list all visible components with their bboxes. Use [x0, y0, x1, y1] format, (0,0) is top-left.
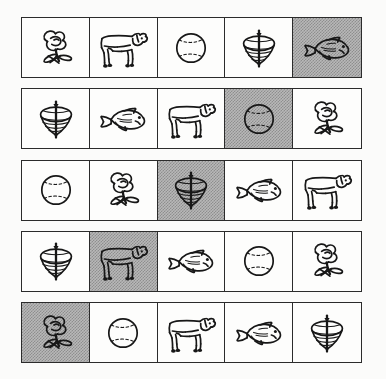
spinning-top-icon [231, 23, 287, 73]
spinning-top-icon [28, 94, 84, 144]
grid-cell-ball[interactable] [224, 231, 293, 292]
grid-cell-top[interactable] [224, 17, 293, 78]
ball-icon [28, 165, 84, 215]
flower-icon [299, 94, 355, 144]
fish-icon [95, 94, 151, 144]
spinning-top-icon [28, 236, 84, 286]
fish-icon [231, 165, 287, 215]
grid-cell-top[interactable] [21, 88, 90, 149]
flower-icon [28, 308, 84, 358]
grid-cell-ball[interactable] [224, 88, 293, 149]
grid-cell-top[interactable] [292, 302, 361, 363]
ball-icon [163, 23, 219, 73]
grid-cell-fish[interactable] [224, 160, 293, 221]
cow-icon [95, 236, 151, 286]
fish-icon [299, 23, 355, 73]
ball-icon [231, 236, 287, 286]
grid-cell-ball[interactable] [21, 160, 90, 221]
cow-icon [163, 94, 219, 144]
grid-row [21, 302, 368, 363]
grid-cell-ball[interactable] [89, 302, 158, 363]
grid-cell-top[interactable] [21, 231, 90, 292]
flower-icon [299, 236, 355, 286]
grid-row [21, 88, 368, 149]
grid-cell-cow[interactable] [157, 88, 226, 149]
grid-cell-fish[interactable] [157, 231, 226, 292]
picture-grid [21, 17, 368, 363]
grid-row [21, 231, 368, 292]
spinning-top-icon [163, 165, 219, 215]
grid-cell-flower[interactable] [292, 88, 361, 149]
spinning-top-icon [299, 308, 355, 358]
grid-cell-fish[interactable] [292, 17, 361, 78]
grid-cell-flower[interactable] [21, 302, 90, 363]
grid-cell-cow[interactable] [292, 160, 361, 221]
cow-icon [299, 165, 355, 215]
grid-cell-flower[interactable] [89, 160, 158, 221]
flower-icon [95, 165, 151, 215]
fish-icon [163, 236, 219, 286]
grid-cell-cow[interactable] [89, 17, 158, 78]
grid-cell-fish[interactable] [224, 302, 293, 363]
grid-cell-cow[interactable] [157, 302, 226, 363]
ball-icon [95, 308, 151, 358]
ball-icon [231, 94, 287, 144]
cow-icon [95, 23, 151, 73]
cow-icon [163, 308, 219, 358]
grid-row [21, 17, 368, 78]
grid-cell-ball[interactable] [157, 17, 226, 78]
grid-cell-flower[interactable] [21, 17, 90, 78]
flower-icon [28, 23, 84, 73]
grid-row [21, 160, 368, 221]
grid-cell-fish[interactable] [89, 88, 158, 149]
grid-cell-cow[interactable] [89, 231, 158, 292]
grid-cell-top[interactable] [157, 160, 226, 221]
grid-cell-flower[interactable] [292, 231, 361, 292]
fish-icon [231, 308, 287, 358]
